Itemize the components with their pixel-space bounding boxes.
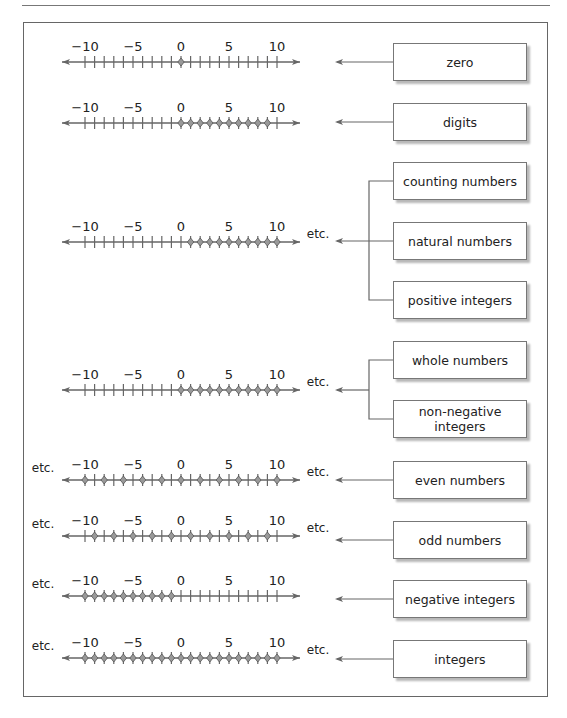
tick-label: 5 xyxy=(225,219,233,234)
point-marker xyxy=(120,592,126,600)
point-marker xyxy=(274,476,280,484)
tick-label: 10 xyxy=(269,219,286,234)
etc-right-label: etc. xyxy=(307,521,330,535)
point-marker xyxy=(274,238,280,246)
point-marker xyxy=(245,119,251,127)
box-zero: zero xyxy=(393,43,527,81)
point-marker xyxy=(245,532,251,540)
tick-label: −5 xyxy=(123,39,142,54)
tick-label: −5 xyxy=(123,573,142,588)
point-marker xyxy=(159,476,165,484)
point-marker xyxy=(178,386,184,394)
point-marker xyxy=(91,592,97,600)
point-marker xyxy=(111,532,117,540)
box-label: counting numbers xyxy=(403,174,517,189)
box-label: whole numbers xyxy=(412,353,508,368)
tick-label: 5 xyxy=(225,100,233,115)
point-marker xyxy=(91,654,97,662)
point-marker xyxy=(149,592,155,600)
point-marker xyxy=(226,532,232,540)
etc-left-label: etc. xyxy=(32,577,55,591)
point-marker xyxy=(235,119,241,127)
point-marker xyxy=(197,386,203,394)
tick-label: 0 xyxy=(177,513,185,528)
point-marker xyxy=(216,476,222,484)
point-marker xyxy=(91,532,97,540)
tick-label: −5 xyxy=(123,457,142,472)
etc-left-label: etc. xyxy=(32,639,55,653)
point-marker xyxy=(82,654,88,662)
tick-label: 0 xyxy=(177,457,185,472)
point-marker xyxy=(130,532,136,540)
tick-label: 5 xyxy=(225,367,233,382)
tick-label: 10 xyxy=(269,457,286,472)
point-marker xyxy=(101,476,107,484)
box-whole-numbers: whole numbers xyxy=(393,341,527,379)
point-marker xyxy=(178,58,184,66)
tick-label: 0 xyxy=(177,573,185,588)
box-label: negative integers xyxy=(405,592,515,607)
point-marker xyxy=(168,532,174,540)
point-marker xyxy=(235,238,241,246)
tick-label: 5 xyxy=(225,635,233,650)
point-marker xyxy=(168,654,174,662)
point-marker xyxy=(120,476,126,484)
tick-label: −10 xyxy=(71,367,98,382)
tick-label: 10 xyxy=(269,100,286,115)
tick-label: −5 xyxy=(123,513,142,528)
point-marker xyxy=(274,654,280,662)
point-marker xyxy=(178,476,184,484)
etc-left-label: etc. xyxy=(32,461,55,475)
tick-label: 10 xyxy=(269,573,286,588)
tick-label: −5 xyxy=(123,635,142,650)
box-negative-integers: negative integers xyxy=(393,580,527,618)
point-marker xyxy=(235,476,241,484)
tick-label: 10 xyxy=(269,39,286,54)
point-marker xyxy=(207,238,213,246)
point-marker xyxy=(111,654,117,662)
etc-right-label: etc. xyxy=(307,227,330,241)
point-marker xyxy=(197,476,203,484)
point-marker xyxy=(178,119,184,127)
tick-label: −10 xyxy=(71,100,98,115)
tick-label: −10 xyxy=(71,573,98,588)
point-marker xyxy=(187,654,193,662)
box-counting-numbers: counting numbers xyxy=(393,162,527,200)
box-label: natural numbers xyxy=(408,234,512,249)
tick-label: 0 xyxy=(177,219,185,234)
point-marker xyxy=(255,476,261,484)
point-marker xyxy=(101,592,107,600)
point-marker xyxy=(264,238,270,246)
tick-label: −10 xyxy=(71,457,98,472)
tick-label: 0 xyxy=(177,100,185,115)
point-marker xyxy=(255,654,261,662)
point-marker xyxy=(216,654,222,662)
point-marker xyxy=(207,386,213,394)
point-marker xyxy=(226,238,232,246)
point-marker xyxy=(139,476,145,484)
box-label: positive integers xyxy=(408,293,512,308)
tick-label: 5 xyxy=(225,573,233,588)
tick-label: 10 xyxy=(269,635,286,650)
box-label: integers xyxy=(434,652,485,667)
point-marker xyxy=(207,654,213,662)
tick-label: 5 xyxy=(225,457,233,472)
point-marker xyxy=(274,386,280,394)
point-marker xyxy=(187,386,193,394)
point-marker xyxy=(255,238,261,246)
tick-label: −10 xyxy=(71,219,98,234)
point-marker xyxy=(264,532,270,540)
point-marker xyxy=(139,592,145,600)
point-marker xyxy=(207,532,213,540)
point-marker xyxy=(264,386,270,394)
box-label-line2: integers xyxy=(434,419,485,434)
tick-label: 10 xyxy=(269,367,286,382)
box-odd-numbers: odd numbers xyxy=(393,521,527,559)
etc-right-label: etc. xyxy=(307,643,330,657)
point-marker xyxy=(111,592,117,600)
connector-bracket xyxy=(369,360,393,419)
point-marker xyxy=(187,119,193,127)
point-marker xyxy=(197,119,203,127)
etc-right-label: etc. xyxy=(307,465,330,479)
point-marker xyxy=(139,654,145,662)
